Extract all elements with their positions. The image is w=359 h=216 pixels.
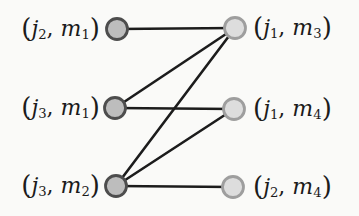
label-j2-m4-sub2: 4 [313,185,321,200]
label-j3-m1-sep: , [47,95,61,120]
label-j2-m1-open: ( [21,13,31,43]
label-j1-m3-sep: , [278,15,292,40]
label-j1-m4-var1: j [263,96,270,121]
label-j3-m2: (j3, m2) [21,171,100,200]
label-j2-m1-var1: j [31,16,38,41]
label-j2-m4-close: ) [322,171,332,201]
node-j3-m2 [106,176,127,197]
node-j2-m4 [223,177,244,198]
edge-j2-m1--j1-m3 [117,28,235,29]
label-j2-m1-var2: m [61,16,82,41]
label-j1-m3-sub2: 3 [313,26,321,41]
label-j3-m1-sub2: 1 [81,106,89,121]
label-j1-m3-var2: m [292,15,313,40]
edge-j3-m2--j2-m4 [116,186,233,187]
edge-layer [115,28,235,187]
label-j2-m4-open: ( [253,171,263,201]
node-j3-m1 [105,98,126,119]
label-j3-m1-var2: m [61,95,82,120]
label-j3-m2-close: ) [90,170,100,200]
label-j2-m4-var2: m [292,174,313,199]
node-j1-m3 [225,18,246,39]
edge-j3-m2--j1-m4 [116,109,234,186]
label-j2-m4-sep: , [278,174,292,199]
label-j2-m4: (j2, m4) [253,172,332,201]
label-j1-m3-close: ) [322,12,332,42]
label-j3-m2-var1: j [31,173,38,198]
label-j3-m2-sep: , [47,173,61,198]
label-j1-m4-open: ( [253,93,263,123]
label-j3-m2-var2: m [61,173,82,198]
label-j2-m1-sub2: 1 [81,27,89,42]
label-j3-m1-close: ) [90,92,100,122]
label-j2-m1-close: ) [90,13,100,43]
label-j3-m1: (j3, m1) [21,93,100,122]
edge-j3-m1--j1-m3 [115,28,235,108]
label-j2-m1: (j2, m1) [21,14,100,43]
label-j1-m4: (j1, m4) [253,94,332,123]
node-j1-m4 [224,99,245,120]
label-j1-m4-sep: , [278,96,292,121]
label-j3-m2-sub2: 2 [81,184,89,199]
node-j2-m1 [107,19,128,40]
label-j2-m4-var1: j [263,174,270,199]
label-j1-m3-open: ( [253,12,263,42]
label-j2-m1-sep: , [47,16,61,41]
label-j1-m3-var1: j [263,15,270,40]
label-j1-m4-var2: m [292,96,313,121]
label-j1-m3: (j1, m3) [253,13,332,42]
label-j1-m4-sub2: 4 [313,107,321,122]
label-j3-m2-open: ( [21,170,31,200]
label-j1-m4-close: ) [322,93,332,123]
label-j3-m1-open: ( [21,92,31,122]
bipartite-graph-figure: (j2, m1)(j3, m1)(j3, m2)(j1, m3)(j1, m4)… [0,0,359,216]
label-j3-m1-var1: j [31,95,38,120]
